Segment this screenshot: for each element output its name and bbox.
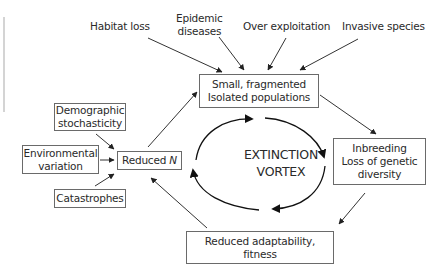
node-reduced-n: Reduced N	[117, 151, 182, 170]
arrow-habitat-loss	[148, 38, 222, 72]
node-inbreeding: Inbreeding Loss of genetic diversity	[333, 138, 426, 185]
arrow-over-exploitation	[268, 38, 286, 70]
threat-epidemic-diseases: Epidemic diseases	[176, 12, 223, 38]
arrow-invasive	[300, 39, 358, 70]
node-demographic-stochasticity: Demographic stochasticity	[54, 103, 126, 131]
node-reduced-adaptability: Reduced adaptability, fitness	[186, 231, 334, 264]
node-small-fragmented: Small, fragmented Isolated populations	[199, 74, 319, 108]
arrow-adapt-to-reducedN	[151, 178, 207, 228]
arrow-catastrophes	[95, 174, 114, 186]
node-environmental-variation: Environmental variation	[22, 145, 99, 174]
threat-habitat-loss: Habitat loss	[90, 20, 150, 33]
arrow-inbreeding-to-adapt	[339, 193, 365, 224]
arrow-reducedN-to-small	[148, 92, 197, 147]
threat-over-exploitation: Over exploitation	[243, 20, 330, 33]
node-catastrophes: Catastrophes	[54, 189, 126, 208]
arrow-epidemic	[219, 37, 244, 70]
vortex-center-label: EXTINCTION VORTEX	[236, 146, 326, 180]
threat-invasive-species: Invasive species	[342, 20, 425, 33]
arrow-small-to-inbreeding	[320, 95, 376, 134]
